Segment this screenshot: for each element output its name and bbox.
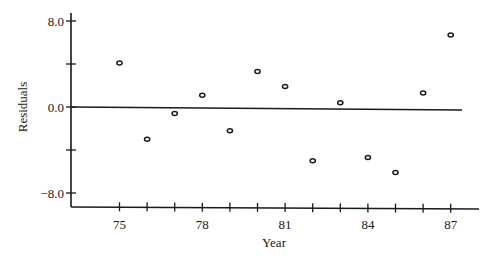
data-point: [393, 171, 398, 175]
y-tick-label: 8.0: [48, 14, 64, 29]
data-point: [255, 70, 260, 74]
y-axis-title: Residuals: [15, 82, 30, 133]
residual-plot: 8.00.0−8.0 7578818487 Residuals Year: [0, 0, 493, 260]
data-point: [172, 111, 177, 115]
data-point: [283, 85, 288, 89]
y-axis: 8.00.0−8.0: [40, 13, 76, 207]
data-point: [421, 91, 426, 95]
data-point: [448, 33, 453, 37]
x-axis: 7578818487: [71, 202, 479, 232]
x-tick-label: 84: [361, 217, 375, 232]
data-point: [117, 61, 122, 65]
data-point: [338, 101, 343, 105]
data-point: [227, 129, 232, 133]
y-tick-label: 0.0: [48, 100, 64, 115]
y-tick-label: −8.0: [40, 186, 64, 201]
x-tick-label: 87: [444, 217, 458, 232]
data-points: [117, 33, 453, 175]
data-point: [200, 93, 205, 97]
x-tick-label: 81: [279, 217, 292, 232]
x-tick-label: 75: [113, 217, 126, 232]
data-point: [365, 156, 370, 160]
zero-reference-line: [71, 107, 462, 110]
data-point: [145, 137, 150, 141]
x-tick-label: 78: [196, 217, 209, 232]
data-point: [310, 159, 315, 163]
x-axis-title: Year: [262, 235, 287, 250]
